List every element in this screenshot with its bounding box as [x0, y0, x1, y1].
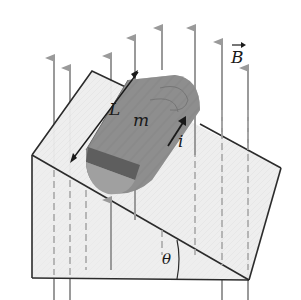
diagram-canvas: L m i B θ: [0, 0, 301, 300]
mass-label: m: [133, 112, 149, 129]
length-label: L: [109, 101, 120, 118]
magnetic-field-label: B: [231, 49, 244, 66]
current-label: i: [178, 133, 183, 150]
angle-label: θ: [162, 252, 171, 267]
